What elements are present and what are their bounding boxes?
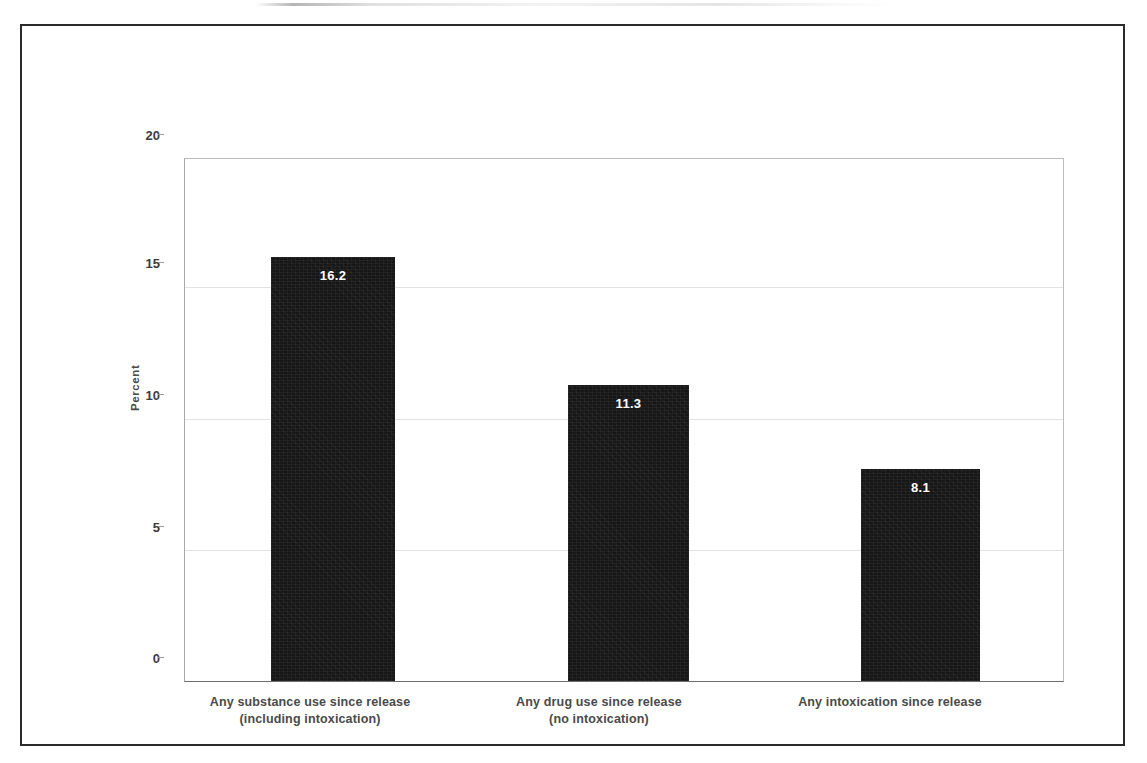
bar-any-drug-use[interactable]: 11.3 (568, 385, 689, 681)
y-tick-label-15: 15 (102, 256, 160, 271)
y-tick-label-20: 20 (102, 128, 160, 143)
figure-frame: Percent 20 15 10 5 0 16.2 11.3 8.1 (20, 24, 1125, 746)
y-tick-mark-0 (158, 657, 164, 658)
x-tick-label-line-1: Any substance use since release (210, 695, 411, 709)
plot-area: 16.2 11.3 8.1 (184, 158, 1064, 682)
bar-value-label: 11.3 (568, 396, 689, 411)
bar-any-intoxication[interactable]: 8.1 (861, 469, 980, 681)
x-tick-label-line-2: (including intoxication) (172, 711, 448, 728)
scan-artifact-strip (255, 3, 895, 6)
y-tick-label-10: 10 (102, 388, 160, 403)
bar-value-label: 16.2 (271, 268, 395, 283)
x-tick-label-line-1: Any drug use since release (516, 695, 682, 709)
y-tick-mark-15 (158, 262, 164, 263)
y-tick-label-5: 5 (102, 520, 160, 535)
x-tick-label-line-1: Any intoxication since release (798, 695, 982, 709)
y-tick-mark-5 (158, 526, 164, 527)
x-tick-label-line-2: (no intoxication) (472, 711, 726, 728)
bar-any-substance-use[interactable]: 16.2 (271, 257, 395, 681)
x-tick-label-any-drug-use: Any drug use since release (no intoxicat… (472, 694, 726, 728)
y-tick-mark-20 (158, 134, 164, 135)
y-tick-label-0: 0 (102, 651, 160, 666)
x-tick-label-any-intoxication: Any intoxication since release (762, 694, 1018, 711)
y-tick-mark-10 (158, 394, 164, 395)
bar-value-label: 8.1 (861, 480, 980, 495)
x-tick-label-any-substance-use: Any substance use since release (includi… (172, 694, 448, 728)
